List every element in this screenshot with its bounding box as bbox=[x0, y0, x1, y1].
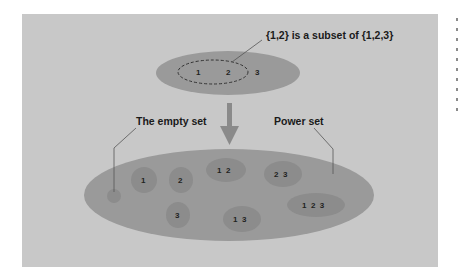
subset-2-label: 2 bbox=[178, 176, 183, 185]
down-arrow-icon bbox=[220, 103, 239, 145]
cropped-text-fragment bbox=[456, 18, 460, 118]
power-set-diagram: 1 2 3 1 2 3 1 2 2 3 1 3 1 2 3 bbox=[0, 0, 463, 278]
subset-13-label: 1 3 bbox=[233, 215, 247, 224]
subset-23-label: 2 3 bbox=[274, 170, 288, 179]
subset-1-label: 1 bbox=[141, 176, 146, 185]
element-1: 1 bbox=[196, 68, 201, 77]
empty-set-label: The empty set bbox=[136, 116, 207, 127]
subset-3-label: 3 bbox=[175, 211, 180, 220]
element-3: 3 bbox=[255, 68, 260, 77]
power-set-label: Power set bbox=[274, 116, 324, 127]
subset-12-label: 1 2 bbox=[217, 166, 231, 175]
subset-annotation: {1,2} is a subset of {1,2,3} bbox=[266, 30, 393, 41]
element-2: 2 bbox=[226, 68, 231, 77]
subset-123-label: 1 2 3 bbox=[302, 201, 325, 210]
